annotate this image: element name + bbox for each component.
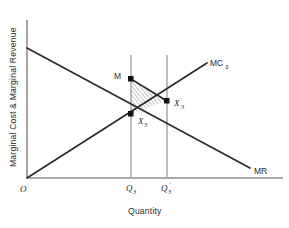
marker-point-m (128, 76, 134, 82)
tick-label-q3-prime-mark: ′ (169, 181, 171, 188)
label-curve-mc3: MC (210, 58, 223, 68)
label-curve-mr: MR (254, 166, 267, 176)
tick-label-q3-subscript: 3 (132, 188, 136, 195)
label-point-m: M (114, 71, 121, 81)
label-point-x3-prime-subscript: 3 (180, 103, 184, 110)
y-axis-title: Marginal Cost & Marginal Revenue (8, 27, 18, 167)
tick-label-q3-prime: Q (161, 183, 168, 193)
label-curve-mc3-subscript: 3 (225, 63, 229, 70)
tick-label-q3-prime-subscript: 3 (167, 188, 171, 195)
marker-point-x3-prime (164, 98, 170, 104)
x-axis-title: Quantity (128, 206, 162, 216)
label-point-x3-prime: X (173, 98, 180, 108)
tick-label-q3: Q (126, 183, 133, 193)
label-point-x3-subscript: 3 (143, 121, 147, 128)
label-origin: O (20, 184, 27, 194)
marker-point-x3 (128, 111, 134, 117)
chart-figure: M X 3 X ′ 3 MC 3 MR O Q 3 Q ′ 3 Quantity… (0, 0, 289, 228)
chart-canvas: M X 3 X ′ 3 MC 3 MR O Q 3 Q ′ 3 Quantity… (0, 0, 289, 228)
label-point-x3: X (137, 116, 144, 126)
label-point-x3-prime-mark: ′ (180, 96, 182, 103)
